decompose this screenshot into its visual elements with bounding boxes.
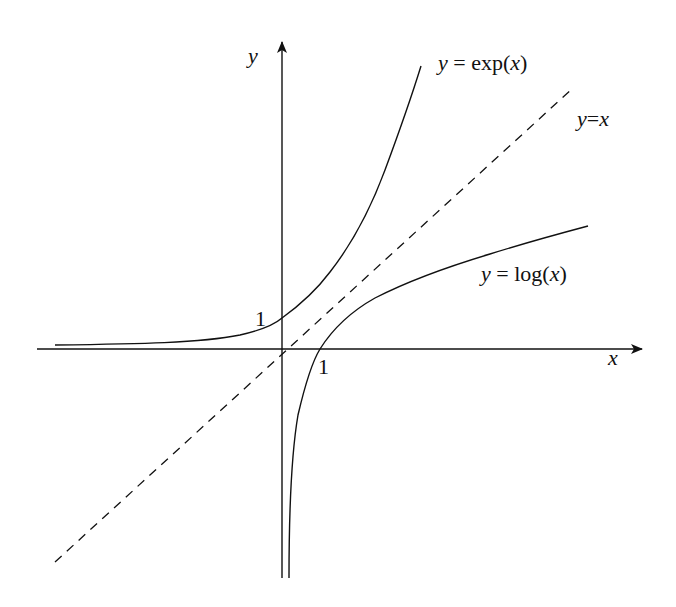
identity-line [55,88,573,562]
y-axis-label: y [246,43,258,68]
log-x-intercept-label: 1 [318,354,329,379]
function-graph: y x y = exp(x) y=x y = log(x) 1 1 [0,0,676,607]
log-curve-label: y = log(x) [479,261,567,286]
identity-line-label: y=x [575,106,609,131]
exp-y-intercept-label: 1 [255,306,266,331]
x-axis-label: x [607,345,618,370]
exp-curve-label: y = exp(x) [436,50,527,75]
